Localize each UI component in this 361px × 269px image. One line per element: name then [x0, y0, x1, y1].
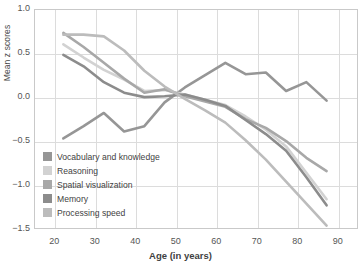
- legend-label: Memory: [57, 194, 88, 204]
- series-line: [63, 63, 326, 139]
- x-tick-label: 30: [82, 236, 108, 246]
- legend-label: Processing speed: [57, 208, 125, 218]
- x-tick-label: 20: [41, 236, 67, 246]
- chart-legend: Vocabulary and knowledgeReasoningSpatial…: [43, 150, 160, 219]
- legend-swatch: [43, 194, 52, 203]
- x-axis-title: Age (in years): [0, 250, 361, 261]
- legend-item[interactable]: Vocabulary and knowledge: [43, 150, 160, 163]
- y-tick-label: −1.0: [0, 179, 30, 189]
- y-tick-label: 0.5: [0, 47, 30, 57]
- legend-label: Reasoning: [57, 166, 98, 176]
- cognitive-abilities-line-chart: Mean z scores −1.5−1.0−0.50.00.51.0 2030…: [0, 0, 361, 269]
- legend-swatch: [43, 152, 52, 161]
- x-tick-label: 80: [284, 236, 310, 246]
- legend-swatch: [43, 208, 52, 217]
- legend-item[interactable]: Spatial visualization: [43, 178, 160, 191]
- legend-item[interactable]: Processing speed: [43, 206, 160, 219]
- y-tick-label: 1.0: [0, 3, 30, 13]
- legend-label: Spatial visualization: [57, 180, 132, 190]
- legend-item[interactable]: Reasoning: [43, 164, 160, 177]
- x-tick-label: 60: [203, 236, 229, 246]
- y-tick-label: −0.5: [0, 135, 30, 145]
- legend-swatch: [43, 166, 52, 175]
- legend-label: Vocabulary and knowledge: [57, 152, 160, 162]
- legend-swatch: [43, 180, 52, 189]
- x-tick-label: 90: [325, 236, 351, 246]
- x-tick-label: 50: [163, 236, 189, 246]
- y-tick-label: −1.5: [0, 223, 30, 233]
- x-tick-label: 70: [244, 236, 270, 246]
- legend-item[interactable]: Memory: [43, 192, 160, 205]
- x-tick-label: 40: [122, 236, 148, 246]
- y-tick-label: 0.0: [0, 91, 30, 101]
